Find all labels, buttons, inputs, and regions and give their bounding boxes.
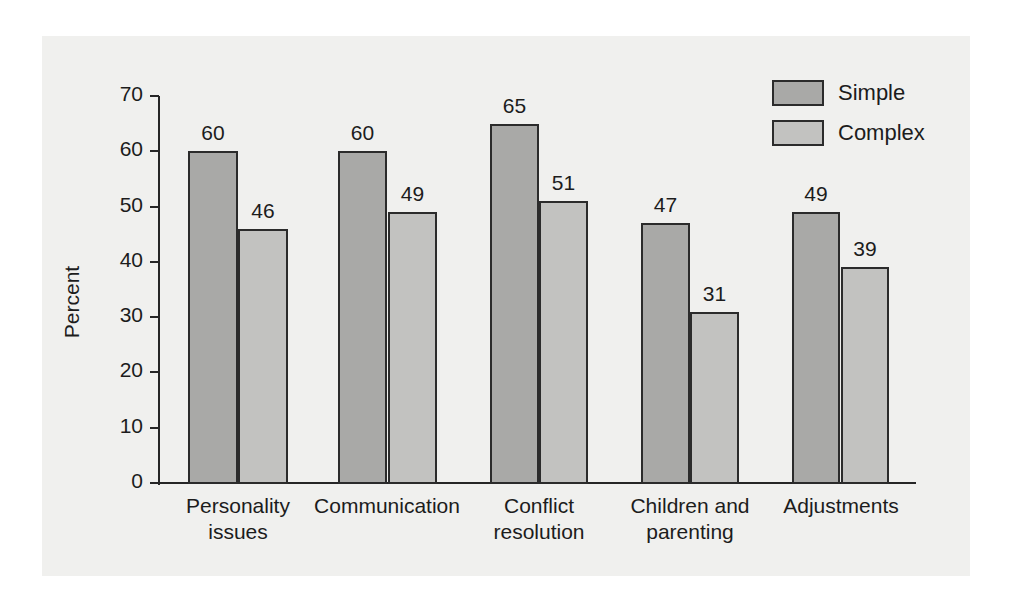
bar-value-label-complex-3: 51: [534, 171, 594, 195]
bar-complex-4: [690, 312, 739, 484]
bar-simple-5: [792, 212, 840, 484]
y-tick-label-10: 10: [95, 414, 143, 438]
bar-complex-3: [539, 201, 588, 484]
y-tick-40: [150, 261, 159, 263]
y-tick-label-70: 70: [95, 82, 143, 106]
bar-value-label-simple-1: 60: [183, 121, 243, 145]
bar-value-label-complex-1: 46: [233, 199, 293, 223]
bar-simple-4: [641, 223, 690, 484]
bar-complex-2: [388, 212, 437, 484]
y-tick-10: [150, 427, 159, 429]
category-label-line: Adjustments: [721, 493, 961, 519]
y-tick-20: [150, 371, 159, 373]
y-tick-70: [150, 95, 159, 97]
legend-swatch-simple: [772, 80, 824, 106]
y-tick-50: [150, 206, 159, 208]
y-tick-60: [150, 150, 159, 152]
bar-simple-3: [490, 124, 539, 484]
bar-simple-2: [338, 151, 387, 484]
plot-area: Percent 010203040506070 6060654749464951…: [0, 0, 1010, 601]
bar-simple-1: [188, 151, 238, 484]
y-tick-label-40: 40: [95, 248, 143, 272]
category-label-5: Adjustments: [721, 493, 961, 519]
y-tick-label-0: 0: [95, 469, 143, 493]
y-tick-0: [150, 482, 159, 484]
y-tick-label-20: 20: [95, 358, 143, 382]
y-tick-label-30: 30: [95, 303, 143, 327]
legend-swatch-complex: [772, 120, 824, 146]
bar-complex-1: [238, 229, 288, 484]
y-tick-30: [150, 316, 159, 318]
bar-value-label-complex-5: 39: [835, 237, 895, 261]
legend-item-simple[interactable]: Simple: [772, 80, 925, 106]
bar-value-label-simple-3: 65: [485, 94, 545, 118]
category-label-line: issues: [118, 519, 358, 545]
legend-item-complex[interactable]: Complex: [772, 120, 925, 146]
chart-page: Percent 010203040506070 6060654749464951…: [0, 0, 1010, 601]
category-label-line: parenting: [570, 519, 810, 545]
legend-label-simple: Simple: [838, 80, 905, 106]
bar-value-label-complex-4: 31: [685, 282, 745, 306]
y-axis-title: Percent: [60, 222, 84, 382]
bar-complex-5: [841, 267, 889, 484]
legend: SimpleComplex: [772, 80, 925, 160]
legend-label-complex: Complex: [838, 120, 925, 146]
y-tick-label-50: 50: [95, 193, 143, 217]
bar-value-label-complex-2: 49: [383, 182, 443, 206]
bar-value-label-simple-4: 47: [636, 193, 696, 217]
y-tick-label-60: 60: [95, 137, 143, 161]
bar-value-label-simple-5: 49: [786, 182, 846, 206]
bar-value-label-simple-2: 60: [333, 121, 393, 145]
